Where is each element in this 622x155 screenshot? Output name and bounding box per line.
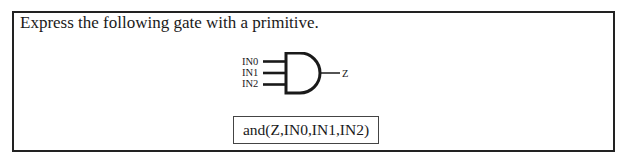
and-gate-icon: IN0 IN1 IN2 Z (240, 52, 370, 107)
and-gate-diagram: IN0 IN1 IN2 Z (240, 52, 370, 111)
input-label-in2: IN2 (242, 78, 258, 89)
answer-text: and(Z,IN0,IN1,IN2) (243, 121, 369, 139)
answer-box: and(Z,IN0,IN1,IN2) (233, 116, 379, 144)
input-label-in0: IN0 (242, 56, 258, 67)
output-label-z: Z (342, 68, 348, 79)
input-label-in1: IN1 (242, 67, 258, 78)
question-prompt: Express the following gate with a primit… (20, 13, 319, 33)
